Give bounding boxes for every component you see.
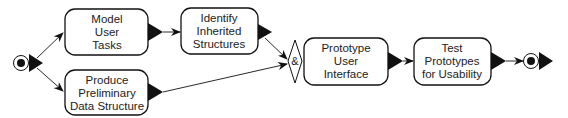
edge-start-to-produce (37, 68, 63, 91)
node-label-line: Tasks (92, 39, 122, 51)
node-label-line: Prototype (321, 42, 370, 54)
start-output-triangle-icon (29, 54, 43, 72)
edge-produce-to-join (163, 64, 287, 92)
edge-start-to-model (37, 33, 63, 58)
activity-diagram: Model User Tasks Produce Preliminary Dat… (0, 0, 568, 118)
output-triangle-icon (491, 52, 506, 70)
output-triangle-icon (258, 24, 272, 40)
node-label-line: for Usability (422, 68, 482, 80)
node-label-line: Inherited (197, 25, 242, 37)
join-label: & (291, 55, 299, 67)
end-output-triangle-icon (539, 52, 553, 70)
edge-identify-to-join (265, 38, 287, 59)
node-label-line: Prototypes (425, 55, 480, 67)
node-model-user-tasks: Model User Tasks (65, 9, 163, 55)
node-label-line: Test (441, 42, 463, 54)
node-test-prototypes-for-usability: Test Prototypes for Usability (414, 38, 506, 85)
output-triangle-icon (148, 23, 163, 41)
node-label-line: Data Structure (70, 100, 144, 112)
node-label-line: Preliminary (78, 87, 136, 99)
node-label-line: Interface (324, 68, 369, 80)
join-diamond: & (288, 40, 302, 83)
node-identify-inherited-structures: Identify Inherited Structures (181, 8, 272, 54)
node-label-line: Identify (200, 12, 237, 24)
node-prototype-user-interface: Prototype User Interface (304, 38, 403, 85)
output-triangle-icon (388, 52, 403, 70)
node-label-line: User (334, 55, 358, 67)
node-label-line: Structures (193, 38, 246, 50)
node-label-line: Model (91, 13, 122, 25)
output-triangle-icon (148, 83, 163, 101)
node-label-line: User (95, 26, 119, 38)
node-label-line: Produce (86, 74, 129, 86)
node-produce-preliminary-data-structure: Produce Preliminary Data Structure (65, 70, 163, 115)
end-node (524, 52, 554, 70)
